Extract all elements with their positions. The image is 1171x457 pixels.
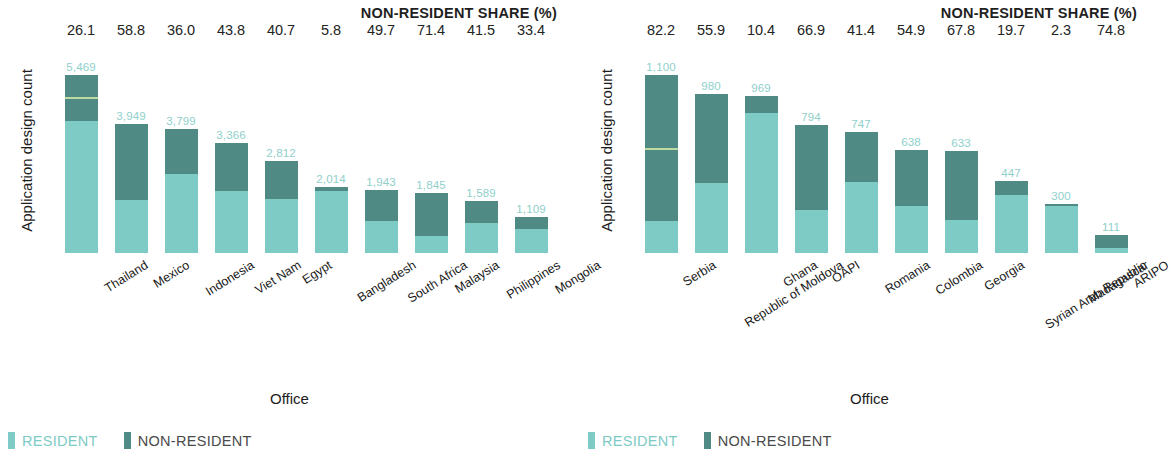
bar-segment-non-resident[interactable] (465, 201, 498, 222)
bar-segment-non-resident[interactable] (895, 150, 928, 207)
bar-segment-non-resident[interactable] (945, 151, 978, 220)
legend-label-resident: RESIDENT (602, 433, 678, 449)
bar-group[interactable]: 2.3300 (1036, 22, 1086, 254)
bar-group[interactable]: 49.71,943 (356, 22, 406, 254)
bar-segment-resident[interactable] (165, 174, 198, 253)
share-header-right: NON-RESIDENT SHARE (%) (941, 5, 1137, 21)
legend-swatch-non-resident-icon (124, 432, 131, 449)
bar-segment-non-resident[interactable] (845, 132, 878, 182)
bar-group[interactable]: 66.9794 (786, 22, 836, 254)
bar-group[interactable]: 43.83,366 (206, 22, 256, 254)
non-resident-share-value: 71.4 (406, 22, 456, 38)
non-resident-share-value: 36.0 (156, 22, 206, 38)
stacked-bar[interactable] (215, 143, 248, 253)
bar-group[interactable]: 55.9980 (686, 22, 736, 254)
plot-area-right: 82.21,10055.998010.496966.979441.474754.… (636, 22, 1136, 254)
legend-item-non-resident[interactable]: NON-RESIDENT (124, 432, 252, 449)
legend-swatch-non-resident-icon (704, 432, 711, 449)
non-resident-share-value: 55.9 (686, 22, 736, 38)
y-axis-title-left: Application design count (18, 41, 35, 261)
bar-segment-resident[interactable] (745, 113, 778, 253)
stacked-bar[interactable] (995, 181, 1028, 253)
stacked-bar[interactable] (1095, 235, 1128, 253)
bar-segment-resident[interactable] (65, 121, 98, 253)
bar-segment-non-resident[interactable] (215, 143, 248, 191)
bar-segment-resident[interactable] (795, 210, 828, 253)
stacked-bar[interactable] (895, 150, 928, 253)
scan-artifact-line (65, 97, 98, 99)
stacked-bar[interactable] (695, 94, 728, 253)
stacked-bar[interactable] (315, 187, 348, 253)
bar-segment-resident[interactable] (945, 220, 978, 253)
y-axis-title-right: Application design count (598, 41, 615, 261)
bar-segment-resident[interactable] (365, 221, 398, 253)
bar-segment-resident[interactable] (1095, 248, 1128, 253)
bar-segment-resident[interactable] (215, 191, 248, 253)
bar-segment-non-resident[interactable] (1095, 235, 1128, 248)
x-axis-category-label: Egypt (300, 258, 335, 287)
stacked-bar[interactable] (745, 96, 778, 253)
bar-segment-resident[interactable] (315, 191, 348, 253)
stacked-bar[interactable] (465, 201, 498, 253)
bar-segment-non-resident[interactable] (365, 190, 398, 221)
bar-group[interactable]: 19.7447 (986, 22, 1036, 254)
stacked-bar[interactable] (845, 132, 878, 253)
bar-segment-resident[interactable] (465, 223, 498, 253)
bar-segment-non-resident[interactable] (695, 94, 728, 183)
legend-item-resident[interactable]: RESIDENT (588, 432, 678, 449)
stacked-bar[interactable] (265, 161, 298, 253)
bar-segment-resident[interactable] (995, 195, 1028, 253)
x-axis-category-label: Romania (883, 258, 933, 296)
bar-group[interactable]: 10.4969 (736, 22, 786, 254)
stacked-bar[interactable] (115, 124, 148, 253)
non-resident-share-value: 66.9 (786, 22, 836, 38)
bar-segment-resident[interactable] (265, 199, 298, 253)
bar-segment-non-resident[interactable] (115, 124, 148, 200)
bar-segment-non-resident[interactable] (415, 193, 448, 236)
bar-segment-non-resident[interactable] (745, 96, 778, 112)
bar-group[interactable]: 82.21,100 (636, 22, 686, 254)
stacked-bar[interactable] (515, 217, 548, 253)
bar-segment-non-resident[interactable] (515, 217, 548, 229)
chart-panel-left: NON-RESIDENT SHARE (%) Application desig… (0, 0, 579, 457)
bar-segment-resident[interactable] (415, 236, 448, 253)
bar-segment-resident[interactable] (645, 221, 678, 253)
bar-segment-non-resident[interactable] (995, 181, 1028, 195)
non-resident-share-value: 41.4 (836, 22, 886, 38)
bar-segment-resident[interactable] (115, 200, 148, 253)
legend-swatch-resident-icon (8, 432, 15, 449)
bar-segment-non-resident[interactable] (265, 161, 298, 198)
x-axis-category-label: Colombia (933, 258, 985, 298)
bar-segment-resident[interactable] (515, 229, 548, 253)
stacked-bar[interactable] (795, 125, 828, 253)
bar-segment-resident[interactable] (895, 206, 928, 253)
stacked-bar[interactable] (365, 190, 398, 253)
bar-segment-resident[interactable] (695, 183, 728, 253)
legend-item-non-resident[interactable]: NON-RESIDENT (704, 432, 832, 449)
bar-segment-non-resident[interactable] (165, 129, 198, 174)
stacked-bar[interactable] (945, 151, 978, 253)
stacked-bar[interactable] (165, 129, 198, 253)
stacked-bar[interactable] (415, 193, 448, 253)
bar-group[interactable]: 5.82,014 (306, 22, 356, 254)
non-resident-share-value: 5.8 (306, 22, 356, 38)
legend-item-resident[interactable]: RESIDENT (8, 432, 98, 449)
x-axis-category-label: Philippines (504, 258, 563, 302)
bar-group[interactable]: 41.51,589 (456, 22, 506, 254)
bar-group[interactable]: 58.83,949 (106, 22, 156, 254)
bar-group[interactable]: 67.8633 (936, 22, 986, 254)
stacked-bar[interactable] (645, 75, 678, 253)
bar-group[interactable]: 71.41,845 (406, 22, 456, 254)
bar-segment-resident[interactable] (845, 182, 878, 253)
bar-group[interactable]: 74.8111 (1086, 22, 1136, 254)
stacked-bar[interactable] (65, 75, 98, 253)
stacked-bar[interactable] (1045, 204, 1078, 253)
bar-segment-non-resident[interactable] (795, 125, 828, 211)
bar-group[interactable]: 33.41,109 (506, 22, 556, 254)
bar-total-value: 1,109 (496, 203, 566, 215)
bar-group[interactable]: 26.15,469 (56, 22, 106, 254)
bar-segment-resident[interactable] (1045, 206, 1078, 253)
bar-group[interactable]: 40.72,812 (256, 22, 306, 254)
non-resident-share-value: 41.5 (456, 22, 506, 38)
